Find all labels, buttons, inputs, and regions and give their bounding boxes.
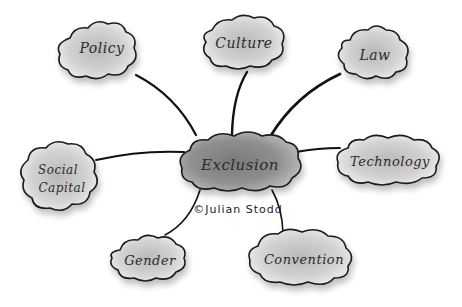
node-label-social-capital-line1: Social: [38, 163, 78, 177]
connector-culture: [232, 72, 247, 134]
node-label-technology: Technology: [350, 154, 430, 169]
connector-technology: [296, 148, 340, 152]
connector-policy: [136, 75, 196, 135]
node-label-culture: Culture: [215, 35, 272, 51]
center-label-exclusion: Exclusion: [200, 156, 279, 174]
node-label-policy: Policy: [79, 40, 126, 56]
credit-text: ©Julian Stodd: [193, 203, 283, 216]
connector-law: [270, 74, 340, 137]
connector-social-capital: [96, 152, 184, 160]
mind-map-canvas: Policy Culture Law Technology Social Cap…: [0, 0, 462, 307]
node-label-social-capital-line2: Capital: [38, 181, 85, 195]
node-label-gender: Gender: [124, 253, 176, 268]
node-label-law: Law: [358, 47, 390, 63]
node-label-convention: Convention: [264, 252, 344, 267]
